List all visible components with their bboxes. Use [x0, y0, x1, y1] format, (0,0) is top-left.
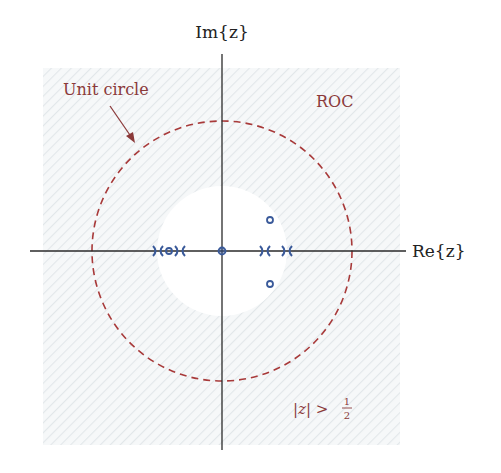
- imag-axis-label: Im{z}: [195, 22, 248, 42]
- zero-circle-icon: [219, 248, 226, 255]
- roc-label: ROC: [316, 92, 353, 111]
- roc-condition-denominator: 2: [344, 410, 350, 421]
- roc-condition-numerator: 1: [344, 396, 350, 407]
- pole-zero-diagram: Im{z} Re{z} Unit circle ROC |z| > 1 2: [0, 0, 501, 473]
- roc-condition-lhs: |z| >: [293, 400, 328, 418]
- unit-circle-label: Unit circle: [63, 80, 149, 99]
- real-axis-label: Re{z}: [412, 241, 465, 261]
